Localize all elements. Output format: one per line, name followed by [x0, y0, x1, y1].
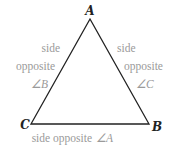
- right-side-label-line1: side: [117, 42, 136, 54]
- left-side-label-line1: side: [41, 42, 60, 54]
- bottom-side-label-text: side opposite: [32, 132, 92, 145]
- right-side-label-angle: ∠C: [136, 78, 154, 90]
- left-side-label-line2: opposite: [16, 60, 55, 73]
- vertex-label-c: C: [20, 118, 30, 132]
- bottom-side-label-angle: ∠A: [96, 132, 114, 144]
- vertex-label-b: B: [151, 120, 162, 134]
- vertex-label-a: A: [84, 4, 94, 18]
- left-side-label-angle: ∠B: [31, 78, 48, 90]
- right-side-label-line2: opposite: [124, 60, 163, 73]
- triangle-figure: A C B side opposite ∠B side opposite ∠C …: [0, 0, 180, 152]
- triangle-diagram: A C B side opposite ∠B side opposite ∠C …: [0, 0, 180, 152]
